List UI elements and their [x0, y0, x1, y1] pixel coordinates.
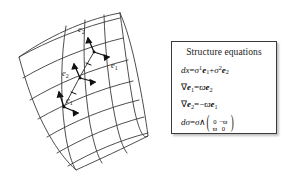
matrix-right-paren: ): [231, 106, 234, 141]
frame-middle: [72, 64, 95, 85]
connection-matrix: (0−ϖϖ0): [206, 114, 233, 132]
equations-list: dx=σ1e1+σ2e2 ∇e1=ϖe2 ∇e2=−ϖe1 dσ=σ∧(0−ϖϖ…: [172, 61, 276, 132]
equation-nabla-e2: ∇e2=−ϖe1: [181, 97, 276, 114]
matrix-grid: 0−ϖϖ0: [211, 118, 228, 132]
label-e1-lower: e1: [66, 95, 73, 106]
eq-dx-e2-sub: 2: [226, 68, 229, 75]
matrix-left-paren: (: [206, 106, 209, 141]
frame-lower-basepoint: [63, 106, 66, 109]
frame-upper-e2-arrowhead: [86, 38, 91, 43]
frame-lower-e1-arrowhead: [73, 111, 78, 116]
grid-curve-v6: [57, 117, 144, 153]
eq-ds-wedge: ∧: [199, 117, 206, 127]
eq-ne2-e1-sub: 1: [215, 103, 218, 110]
surface-outline: [19, 13, 148, 170]
matrix-cell-10: ϖ: [211, 125, 218, 132]
equations-panel-title: Structure equations: [172, 47, 276, 57]
frame-middle-e2-arrowhead: [72, 64, 77, 69]
structure-equations-figure: e2 e1 e2 e1 Structure equations dx=σ1e1+…: [0, 0, 284, 181]
grid-curve-v5: [47, 100, 139, 137]
label-e2-lower: e2: [62, 68, 69, 79]
eq-ne1-e2-sub: 2: [210, 86, 213, 93]
label-e2-upper: e2: [78, 24, 85, 35]
equation-dsigma: dσ=σ∧(0−ϖϖ0): [181, 114, 276, 132]
grid-curve-u4: [120, 13, 148, 137]
matrix-row: 0−ϖ: [211, 118, 228, 125]
structure-equations-panel: Structure equations dx=σ1e1+σ2e2 ∇e1=ϖe2…: [171, 41, 277, 134]
label-e1-upper: e1: [111, 60, 118, 71]
matrix-cell-01: −ϖ: [218, 118, 228, 125]
frame-middle-e1-arrowhead: [90, 80, 95, 85]
frame-upper-basepoint: [93, 51, 96, 54]
frame-middle-basepoint: [79, 77, 82, 80]
frame-upper-e1-arrowhead: [104, 55, 109, 60]
equation-dx: dx=σ1e1+σ2e2: [181, 61, 276, 80]
surface-diagram: e2 e1 e2 e1: [0, 0, 175, 181]
grid-curve-v7: [68, 133, 148, 166]
matrix-row: ϖ0: [211, 125, 228, 132]
matrix-cell-11: 0: [218, 125, 228, 132]
matrix-cell-00: 0: [211, 118, 218, 125]
equation-nabla-e1: ∇e1=ϖe2: [181, 80, 276, 97]
